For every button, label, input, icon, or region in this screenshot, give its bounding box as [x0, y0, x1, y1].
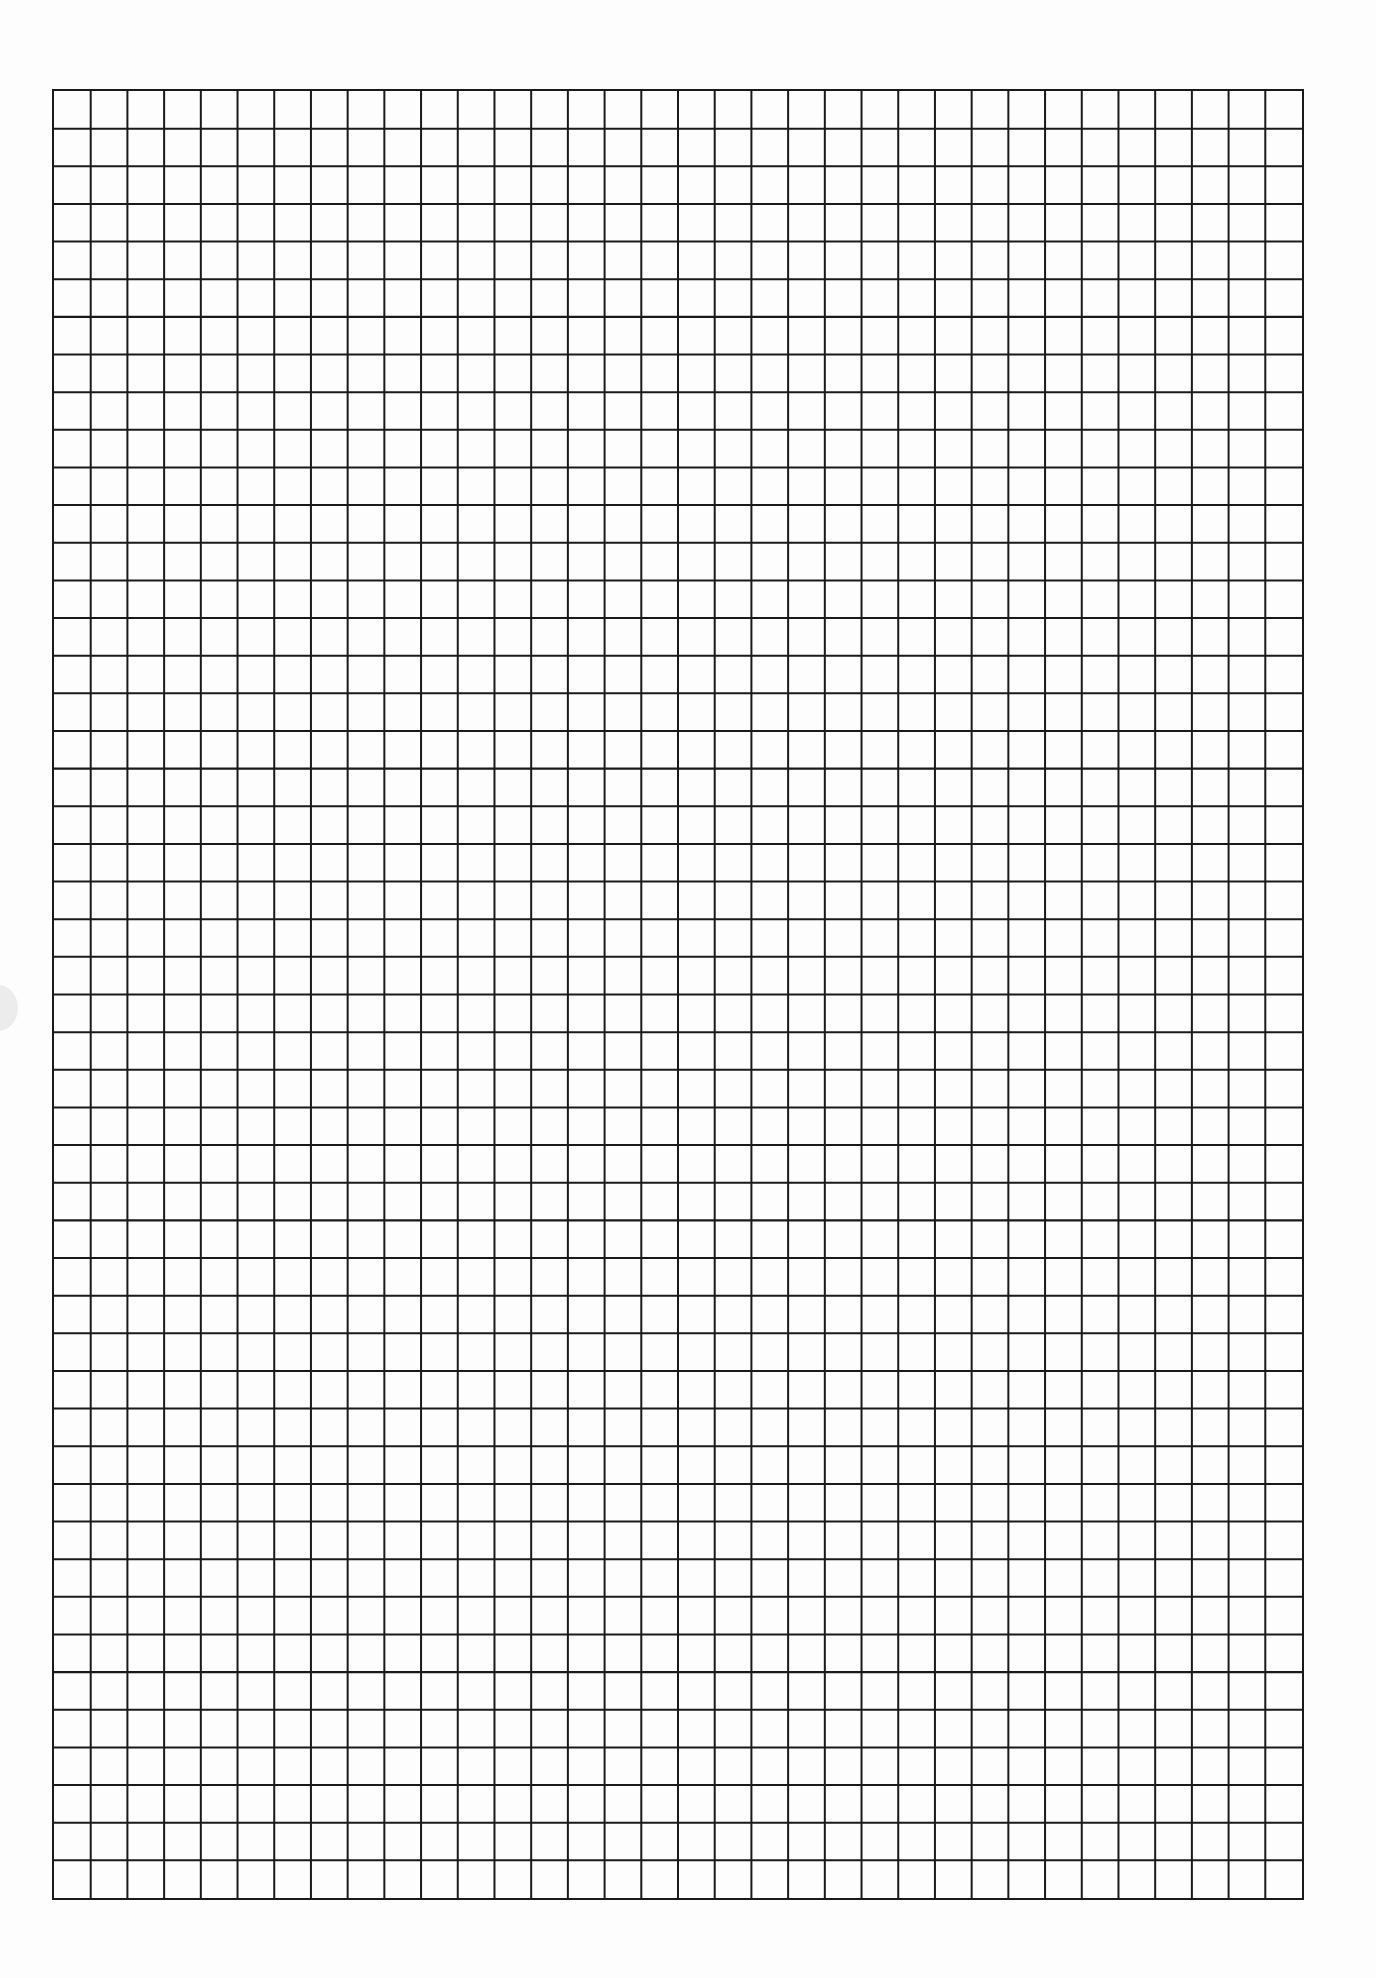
square-grid: [52, 89, 1304, 1900]
graph-paper-page: [0, 0, 1376, 1978]
hole-punch-shadow: [0, 985, 18, 1031]
grid-lines: [54, 91, 1302, 1898]
